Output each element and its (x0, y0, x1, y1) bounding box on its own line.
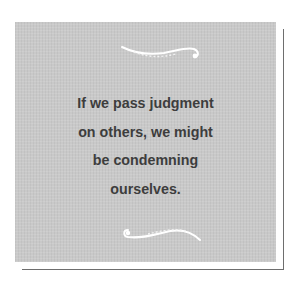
quote-card: If we pass judgment on others, we might … (15, 22, 276, 262)
quote-line: be condemning (25, 146, 265, 175)
top-flourish-icon (120, 41, 202, 63)
quote-text: If we pass judgment on others, we might … (25, 89, 265, 203)
quote-line: ourselves. (25, 175, 265, 204)
bottom-flourish-icon (120, 222, 202, 244)
quote-line: on others, we might (25, 118, 265, 147)
quote-line: If we pass judgment (25, 89, 265, 118)
